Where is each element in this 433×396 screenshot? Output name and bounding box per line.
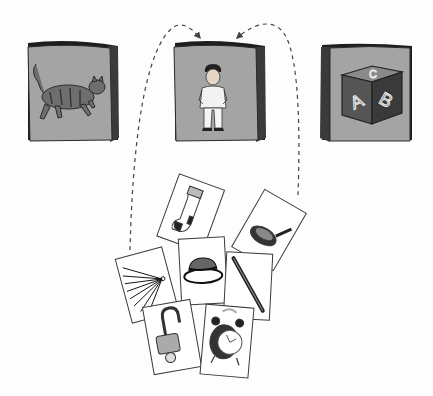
bag-middle <box>174 41 266 142</box>
card-padlock <box>142 299 201 374</box>
card-hat <box>178 237 227 305</box>
bag-right: C A B <box>320 44 412 142</box>
illustration: C A B <box>0 0 433 396</box>
card-pile <box>115 174 306 378</box>
block-letter-c: C <box>369 68 377 80</box>
abc-block-icon: C A B <box>342 66 402 124</box>
card-alarm-clock <box>200 304 254 378</box>
bag-left <box>28 41 119 142</box>
